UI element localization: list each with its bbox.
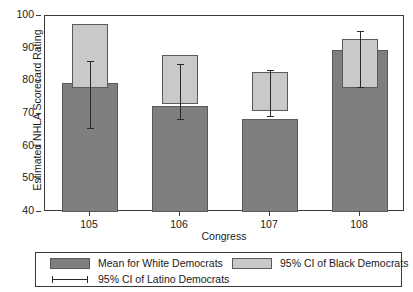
legend-item-latino-democrats: 95% CI of Latino Democrats [50, 271, 229, 287]
y-tick-mark-80 [36, 80, 41, 81]
errorbar-cap-top-108 [357, 31, 364, 32]
y-tick-label-80: 80 [22, 73, 34, 85]
legend-row-1: Mean for White Democrats 95% CI of Black… [36, 255, 401, 271]
y-tick-mark-70 [36, 113, 41, 114]
legend-errorbar-cap-left [52, 276, 53, 283]
y-tick-label-40: 40 [22, 204, 34, 216]
errorbar-cap-bottom-107 [267, 116, 274, 117]
ci-errorbar-latino-democrats-105 [87, 61, 94, 129]
bar-white-democrats-106 [152, 106, 208, 212]
legend-swatch-white-democrats [50, 258, 90, 269]
legend-errorbar-cap-right [87, 276, 88, 283]
y-tick-mark-90 [36, 48, 41, 49]
errorbar-cap-top-105 [87, 61, 94, 62]
ci-errorbar-latino-democrats-107 [267, 70, 274, 117]
y-tick-mark-40 [36, 211, 41, 212]
y-tick-mark-60 [36, 146, 41, 147]
x-tick-mark-107 [269, 211, 270, 216]
y-tick-label-70: 70 [22, 106, 34, 118]
chart-figure: Estimated NHLA Scorecard Rating 10090807… [0, 0, 413, 292]
x-tick-label-106: 106 [159, 218, 199, 230]
y-tick-mark-100 [36, 15, 41, 16]
chart-legend: Mean for White Democrats 95% CI of Black… [35, 252, 402, 287]
legend-swatch-latino-democrats [50, 274, 90, 285]
plot-marks-layer [45, 16, 403, 210]
errorbar-stem-107 [270, 70, 271, 117]
x-tick-mark-105 [89, 211, 90, 216]
ci-errorbar-latino-democrats-106 [177, 64, 184, 120]
bar-white-democrats-107 [242, 119, 298, 212]
x-tick-mark-108 [359, 211, 360, 216]
plot-area [44, 15, 404, 211]
legend-swatch-black-democrats [232, 258, 272, 269]
y-tick-label-50: 50 [22, 171, 34, 183]
ci-errorbar-latino-democrats-108 [357, 31, 364, 88]
x-tick-label-108: 108 [339, 218, 379, 230]
y-tick-label-90: 90 [22, 41, 34, 53]
errorbar-cap-bottom-106 [177, 119, 184, 120]
errorbar-cap-top-107 [267, 70, 274, 71]
x-axis-title: Congress [44, 230, 404, 242]
errorbar-cap-bottom-105 [87, 128, 94, 129]
x-tick-label-107: 107 [249, 218, 289, 230]
y-tick-mark-50 [36, 178, 41, 179]
legend-item-white-democrats: Mean for White Democrats [50, 255, 223, 271]
x-tick-mark-106 [179, 211, 180, 216]
x-tick-label-105: 105 [69, 218, 109, 230]
y-tick-label-100: 100 [16, 8, 34, 20]
errorbar-stem-105 [90, 61, 91, 129]
errorbar-stem-108 [360, 31, 361, 88]
legend-row-2: 95% CI of Latino Democrats [36, 271, 401, 287]
y-tick-label-60: 60 [22, 139, 34, 151]
legend-label-black-democrats: 95% CI of Black Democrats [280, 257, 408, 269]
errorbar-cap-top-106 [177, 64, 184, 65]
legend-errorbar-line [52, 279, 88, 280]
legend-label-latino-democrats: 95% CI of Latino Democrats [98, 273, 229, 285]
legend-item-black-democrats: 95% CI of Black Democrats [232, 255, 408, 271]
legend-label-white-democrats: Mean for White Democrats [98, 257, 223, 269]
errorbar-stem-106 [180, 64, 181, 120]
errorbar-cap-bottom-108 [357, 87, 364, 88]
